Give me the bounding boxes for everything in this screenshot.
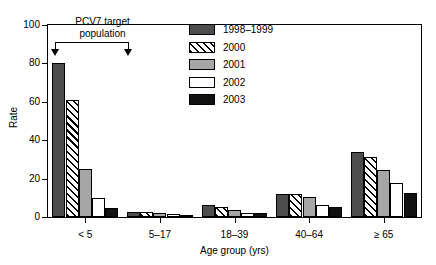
bar [202,205,215,217]
bar [289,194,302,217]
y-tick-label: 80 [0,58,47,68]
bar [52,63,65,217]
legend-label: 2000 [223,42,245,53]
legend-label: 2001 [223,59,245,70]
y-tick-label: 0 [0,212,47,222]
annotation-arrow-right-icon [124,49,132,56]
bar [215,207,228,217]
annotation-text: PCV7 target population [35,16,170,40]
annotation-line-2: population [35,28,170,40]
bar [377,170,390,217]
legend-label: 2002 [223,77,245,88]
bar [276,194,289,217]
legend-swatch [189,59,215,70]
bar [153,213,166,217]
bar [92,198,105,217]
legend-label: 1998–1999 [223,24,273,35]
bar [404,193,417,217]
bar [79,169,92,217]
x-tick-label: 5–17 [120,229,200,240]
annotation-line-1: PCV7 target [35,16,170,28]
x-tick-mark [160,218,161,223]
legend-swatch [189,94,215,105]
legend-item: 2002 [189,75,273,90]
bar [241,213,254,217]
legend-item: 2000 [189,40,273,55]
x-tick-label: 18–39 [195,229,275,240]
bar [254,213,267,217]
bar [364,157,377,217]
bar [105,208,118,217]
y-tick-mark [42,102,47,103]
y-tick-mark [42,179,47,180]
y-axis-title: Rate [8,88,19,148]
x-axis-title: Age group (yrs) [47,245,422,256]
x-tick-label: ≥ 65 [344,229,424,240]
y-tick-label: 20 [0,174,47,184]
bar [303,197,316,217]
legend-swatch [189,77,215,88]
x-tick-mark [309,218,310,223]
bar [140,212,153,217]
y-tick-mark [42,217,47,218]
annotation-arrow-left-icon [51,49,59,56]
x-tick-mark [384,218,385,223]
legend-item: 1998–1999 [189,22,273,37]
bar [316,205,329,217]
legend-label: 2003 [223,94,245,105]
bar [390,183,403,217]
y-tick-mark [42,63,47,64]
legend-swatch [189,42,215,53]
bar [228,210,241,217]
x-tick-label: 40–64 [269,229,349,240]
bar [66,100,79,217]
legend: 1998–19992000200120022003 [189,22,273,110]
x-tick-mark [235,218,236,223]
legend-item: 2003 [189,92,273,107]
bar [167,214,180,217]
y-tick-mark [42,140,47,141]
legend-item: 2001 [189,57,273,72]
legend-swatch [189,24,215,35]
x-tick-mark [85,218,86,223]
annotation-bracket [55,42,129,50]
x-tick-label: < 5 [45,229,125,240]
bar [329,207,342,217]
bar [127,212,140,217]
bar [180,215,193,217]
bar [351,152,364,217]
bar-chart: 020406080100 Rate < 55–1718–3940–64≥ 65 … [0,0,436,265]
